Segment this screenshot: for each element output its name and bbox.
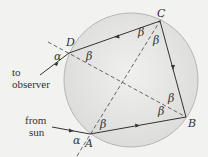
to-observer-label-line2: observer [12,78,50,90]
from-sun-label-line1: from [25,114,47,126]
point-label-a: A [84,137,93,150]
angle-beta-b1: β [167,92,174,105]
angle-beta-b2: β [157,105,164,118]
angle-beta-c2: β [152,34,159,47]
diagram-canvas: C D B A α β β β β β β α to observer from… [0,0,208,157]
angle-alpha-d: α [54,50,62,63]
raindrop-diagram: C D B A α β β β β β β α to observer from… [0,0,208,157]
angle-alpha-a: α [73,134,81,147]
point-label-d: D [65,36,75,49]
angle-beta-a: β [99,118,106,131]
point-label-c: C [157,7,166,20]
angle-beta-c1: β [137,26,144,39]
angle-beta-d: β [85,50,92,63]
from-sun-label-line2: sun [29,126,45,138]
point-label-b: B [187,117,196,130]
to-observer-label-line1: to [12,66,21,78]
